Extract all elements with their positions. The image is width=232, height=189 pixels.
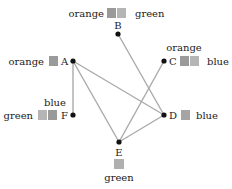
edges [73,34,164,142]
color-box [114,159,124,169]
color-box [181,110,190,120]
c-right-label: blue [207,56,229,67]
b-right-label: green [135,8,165,19]
color-box [180,56,189,66]
node-f-label: F [61,110,68,121]
color-box [190,56,199,66]
edge-a-d [73,61,164,115]
node-a [70,58,75,63]
f-top-label: blue [44,97,66,108]
edge-a-e [73,61,119,142]
color-box [107,8,116,18]
node-f [70,112,75,117]
color-box [38,110,47,120]
a-left-label: orange [8,56,44,67]
node-c-label: C [169,56,177,67]
b-left-label: orange [68,8,104,19]
node-c [161,58,166,63]
d-right-label: blue [196,110,218,121]
f-left-label: green [4,110,34,121]
node-b-label: B [114,20,121,31]
color-box [48,110,57,120]
color-box [49,56,58,66]
node-e [116,139,121,144]
edge-c-e [119,61,164,142]
c-top-label: orange [166,42,202,53]
node-d-label: D [169,110,177,121]
node-e-label: E [115,147,122,158]
e-bottom-label: green [104,172,134,183]
color-box [117,8,126,18]
node-b [115,31,120,36]
node-a-label: A [60,56,69,67]
graph-diagram: orange green B orange A orange C blue bl… [0,0,232,189]
node-d [161,112,166,117]
